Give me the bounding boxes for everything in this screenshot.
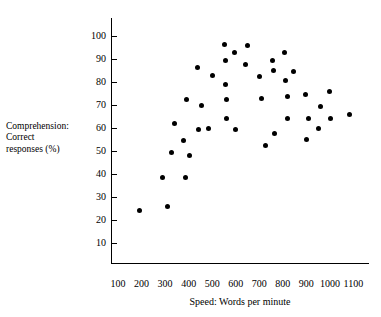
scatter-point (304, 137, 309, 142)
scatter-point (285, 94, 290, 99)
scatter-point (259, 96, 264, 101)
scatter-point (318, 104, 323, 109)
scatter-point (196, 127, 201, 132)
scatter-point (187, 153, 192, 158)
scatter-point (184, 97, 189, 102)
scatter-point (270, 58, 275, 63)
scatter-point (271, 68, 276, 73)
scatter-point (243, 62, 248, 67)
scatter-point (245, 43, 250, 48)
scatter-point (137, 208, 142, 213)
scatter-point (285, 116, 290, 121)
scatter-point (232, 50, 237, 55)
scatter-point (272, 131, 277, 136)
scatter-point (169, 150, 174, 155)
scatter-point (160, 175, 165, 180)
scatter-point (257, 74, 262, 79)
scatter-point (347, 112, 352, 117)
scatter-point (224, 116, 229, 121)
scatter-point (328, 116, 333, 121)
scatter-point (223, 82, 228, 87)
scatter-point (206, 126, 211, 131)
scatter-point (224, 97, 229, 102)
scatter-point (282, 50, 287, 55)
plot-data-area (0, 0, 381, 317)
scatter-point (223, 58, 228, 63)
scatter-point (263, 143, 268, 148)
scatter-plot-figure: Comprehension: Correct responses (%) Spe… (0, 0, 381, 317)
scatter-point (316, 126, 321, 131)
scatter-point (291, 69, 296, 74)
scatter-point (283, 78, 288, 83)
scatter-point (165, 204, 170, 209)
scatter-point (303, 92, 308, 97)
scatter-point (306, 116, 311, 121)
scatter-point (222, 42, 227, 47)
scatter-point (172, 121, 177, 126)
scatter-point (199, 103, 204, 108)
scatter-point (181, 138, 186, 143)
scatter-point (327, 89, 332, 94)
scatter-point (183, 175, 188, 180)
scatter-point (210, 73, 215, 78)
scatter-point (233, 127, 238, 132)
scatter-point (195, 65, 200, 70)
